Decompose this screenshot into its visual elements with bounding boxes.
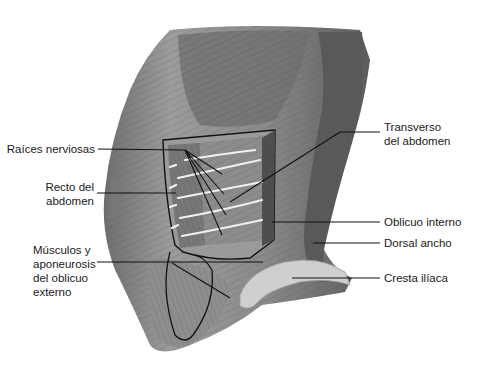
label-rectus-abdominis: Recto del abdomen <box>0 180 94 208</box>
label-internal-oblique: Oblicuo interno <box>384 215 477 229</box>
anatomy-illustration: Raíces nerviosas Recto del abdomen Múscu… <box>0 0 477 372</box>
label-transversus-abdominis: Transverso del abdomen <box>384 120 477 148</box>
label-iliac-crest: Cresta ilíaca <box>384 271 477 285</box>
label-external-oblique: Músculos y aponeurosis del oblicuo exter… <box>33 243 123 299</box>
label-nerve-roots: Raíces nerviosas <box>0 142 95 156</box>
label-latissimus-dorsi: Dorsal ancho <box>384 236 477 250</box>
